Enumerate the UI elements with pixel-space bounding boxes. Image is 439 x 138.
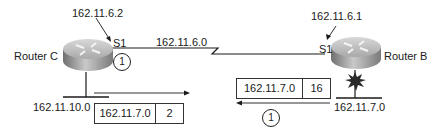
router-b-icon xyxy=(330,36,382,70)
router-c-lan-network: 162.11.10.0 xyxy=(33,101,90,113)
serial-link-network: 162.11.6.0 xyxy=(156,36,207,48)
serial-link xyxy=(108,48,325,54)
router-b-name: Router B xyxy=(384,50,427,62)
pointer-c-ip xyxy=(96,18,110,40)
router-b-interface-label: S1 xyxy=(319,43,332,55)
update-metric: 16 xyxy=(302,79,330,98)
router-c-interface-ip: 162.11.6.2 xyxy=(72,7,123,19)
arrowhead-right-icon xyxy=(184,91,190,96)
update-metric: 2 xyxy=(155,104,183,123)
routing-update-c: 162.11.7.0 2 xyxy=(94,103,184,124)
link-failure-burst-icon xyxy=(345,72,366,91)
update-network: 162.11.7.0 xyxy=(237,79,302,98)
routing-update-b: 162.11.7.0 16 xyxy=(236,78,331,99)
arrowhead-left-icon xyxy=(236,101,242,106)
router-c-interface-label: S1 xyxy=(113,37,126,49)
router-c-icon xyxy=(62,38,114,72)
router-b-lan-network: 162.11.7.0 xyxy=(334,101,385,113)
update-network: 162.11.7.0 xyxy=(95,104,155,123)
step-marker-c: 1 xyxy=(113,53,131,71)
router-b-interface-ip: 162.11.6.1 xyxy=(311,10,362,22)
router-c-name: Router C xyxy=(14,50,58,62)
step-marker-b: 1 xyxy=(262,109,280,127)
